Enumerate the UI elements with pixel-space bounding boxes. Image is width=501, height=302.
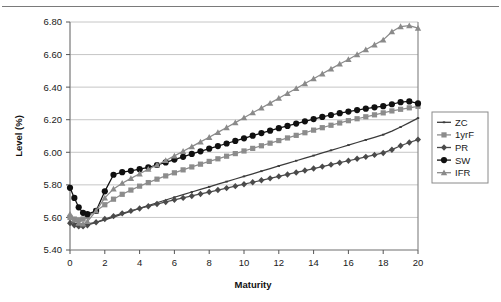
- data-point: [330, 149, 332, 151]
- line-chart-canvas: 02468101214161820 5.405.605.806.006.206.…: [0, 0, 501, 302]
- data-point: [441, 157, 447, 163]
- data-point: [250, 146, 255, 151]
- x-tick-label: 12: [274, 257, 285, 268]
- data-point: [285, 171, 291, 177]
- data-point: [189, 143, 195, 149]
- data-point: [128, 187, 133, 192]
- data-point: [163, 157, 169, 163]
- data-point: [189, 164, 194, 169]
- x-axis-title: Maturity: [235, 279, 273, 290]
- data-point: [67, 185, 73, 191]
- data-point: [224, 154, 229, 159]
- data-point: [189, 193, 195, 199]
- data-point: [319, 163, 325, 169]
- x-tick-label: 18: [378, 257, 389, 268]
- data-point: [328, 161, 334, 167]
- data-point: [345, 56, 351, 62]
- data-point: [354, 156, 360, 162]
- data-point: [197, 148, 203, 154]
- data-point: [181, 167, 186, 172]
- y-tick-label: 5.60: [44, 212, 63, 223]
- data-point: [206, 189, 212, 195]
- data-point: [233, 151, 238, 156]
- data-point: [198, 162, 203, 167]
- data-point: [136, 171, 142, 177]
- data-point: [415, 136, 421, 142]
- data-point: [345, 158, 351, 164]
- data-point: [146, 180, 151, 185]
- data-point: [215, 143, 221, 149]
- legend-label: PR: [455, 142, 468, 153]
- data-point: [232, 119, 238, 125]
- data-point: [223, 124, 229, 130]
- data-point: [215, 187, 221, 193]
- data-point: [189, 151, 195, 157]
- data-point: [232, 138, 238, 144]
- data-point: [267, 175, 273, 181]
- y-tick-label: 5.40: [44, 244, 63, 255]
- series-layer: [67, 22, 421, 229]
- data-point: [345, 108, 351, 114]
- x-tick-label: 16: [343, 257, 354, 268]
- data-point: [354, 107, 360, 113]
- data-point: [319, 114, 325, 120]
- data-point: [337, 160, 343, 166]
- data-point: [276, 138, 281, 143]
- data-point: [398, 107, 403, 112]
- data-point: [197, 139, 203, 145]
- data-point: [293, 121, 299, 127]
- data-point: [319, 71, 325, 77]
- data-point: [258, 130, 264, 136]
- data-point: [355, 116, 360, 121]
- data-point: [363, 106, 369, 112]
- data-point: [346, 118, 351, 123]
- data-point: [381, 110, 386, 115]
- x-axis-ticks: [70, 250, 418, 254]
- data-point: [406, 98, 412, 104]
- data-point: [180, 148, 186, 154]
- data-point: [363, 114, 368, 119]
- data-point: [224, 185, 230, 191]
- data-point: [389, 29, 395, 35]
- data-point: [241, 115, 247, 121]
- y-tick-label: 6.80: [44, 16, 63, 27]
- data-point: [128, 168, 134, 174]
- data-point: [302, 167, 308, 173]
- data-point: [110, 186, 116, 192]
- data-point: [302, 130, 307, 135]
- data-point: [337, 120, 342, 125]
- data-point: [371, 42, 377, 48]
- data-point: [243, 175, 245, 177]
- y-tick-label: 6.60: [44, 49, 63, 60]
- x-tick-label: 6: [172, 257, 177, 268]
- data-point: [415, 100, 421, 106]
- data-point: [284, 90, 290, 96]
- data-point: [258, 177, 264, 183]
- data-point: [137, 184, 142, 189]
- data-point: [371, 104, 377, 110]
- legend-label: ZC: [455, 117, 468, 128]
- chart-figure: 02468101214161820 5.405.605.806.006.206.…: [0, 0, 501, 302]
- data-point: [224, 140, 230, 146]
- data-point: [302, 118, 308, 124]
- legend-label: SW: [455, 155, 470, 166]
- data-point: [380, 150, 386, 156]
- data-point: [198, 191, 204, 197]
- data-point: [347, 144, 349, 146]
- data-point: [312, 155, 314, 157]
- data-point: [120, 192, 125, 197]
- data-point: [284, 123, 290, 129]
- data-point: [119, 210, 125, 216]
- data-point: [163, 173, 168, 178]
- data-point: [207, 159, 212, 164]
- legend-label: 1yrF: [455, 129, 474, 140]
- y-tick-label: 6.20: [44, 114, 63, 125]
- data-point: [302, 80, 308, 86]
- data-point: [328, 123, 333, 128]
- data-point: [294, 133, 299, 138]
- data-point: [145, 203, 151, 209]
- x-tick-label: 14: [308, 257, 319, 268]
- x-tick-label: 0: [67, 257, 72, 268]
- data-point: [406, 139, 412, 145]
- data-point: [208, 186, 210, 188]
